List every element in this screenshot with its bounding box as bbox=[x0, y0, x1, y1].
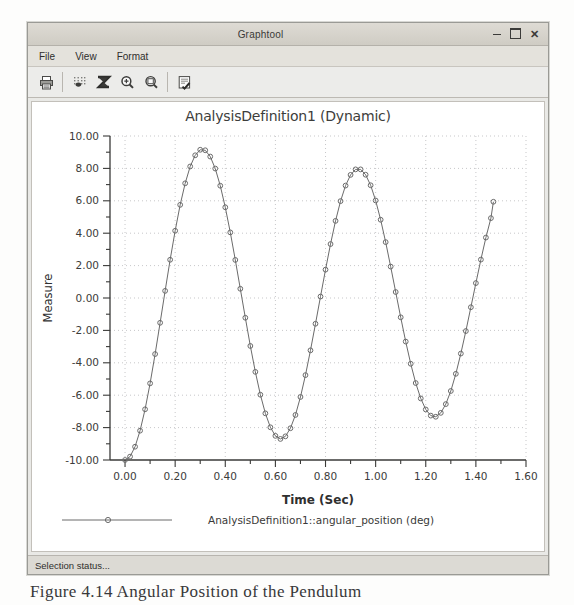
y-tick-label: 2.00 bbox=[76, 259, 99, 271]
y-tick-label: 4.00 bbox=[76, 227, 99, 239]
show-line-icon[interactable] bbox=[92, 71, 114, 93]
x-tick-label: 0.20 bbox=[163, 470, 186, 482]
y-tick-label: -2.00 bbox=[72, 324, 99, 336]
y-tick-label: -4.00 bbox=[72, 356, 99, 368]
x-tick-label: 0.40 bbox=[214, 470, 237, 482]
y-tick-label: -8.00 bbox=[72, 421, 99, 433]
x-tick-label: 0.60 bbox=[264, 470, 287, 482]
zoom-in-icon[interactable] bbox=[116, 71, 138, 93]
toolbar-group-edit bbox=[172, 71, 196, 93]
toolbar-separator-2 bbox=[167, 72, 168, 92]
edit-properties-icon[interactable] bbox=[173, 71, 195, 93]
x-tick-label: 0.00 bbox=[113, 470, 136, 482]
chart-area[interactable]: AnalysisDefinition1 (Dynamic) 10.008.006… bbox=[31, 101, 545, 552]
figure-caption: Figure 4.14 Angular Position of the Pend… bbox=[30, 582, 556, 605]
minimize-button[interactable] bbox=[493, 29, 501, 40]
graphtool-window: Graphtool ✕ File View Format bbox=[27, 22, 549, 575]
y-tick-label: 6.00 bbox=[76, 194, 99, 206]
close-button[interactable]: ✕ bbox=[530, 29, 539, 40]
menu-item-file[interactable]: File bbox=[36, 50, 58, 63]
y-tick-label: -6.00 bbox=[72, 389, 99, 401]
legend: AnalysisDefinition1::angular_position (d… bbox=[62, 514, 434, 527]
window-title: Graphtool bbox=[28, 29, 493, 40]
menubar: File View Format bbox=[28, 46, 548, 67]
x-tick-label: 1.40 bbox=[464, 470, 487, 482]
legend-label: AnalysisDefinition1::angular_position (d… bbox=[208, 514, 434, 527]
maximize-button[interactable] bbox=[510, 28, 521, 41]
window-titlebar: Graphtool ✕ bbox=[28, 23, 548, 46]
statusbar: Selection status... bbox=[28, 555, 548, 574]
toolbar-group-display bbox=[67, 71, 163, 93]
y-tick-label: -10.00 bbox=[65, 454, 99, 466]
print-icon[interactable] bbox=[35, 71, 57, 93]
menu-item-format[interactable]: Format bbox=[114, 50, 152, 63]
y-axis-label: Measure bbox=[41, 274, 55, 323]
menu-item-view[interactable]: View bbox=[72, 50, 100, 63]
show-points-icon[interactable] bbox=[68, 71, 90, 93]
toolbar-separator-1 bbox=[62, 72, 63, 92]
toolbar bbox=[28, 67, 548, 98]
x-tick-label: 1.60 bbox=[514, 470, 537, 482]
x-tick-label: 0.80 bbox=[314, 470, 337, 482]
x-tick-label: 1.20 bbox=[414, 470, 437, 482]
toolbar-group-file bbox=[34, 71, 58, 93]
y-tick-label: 10.00 bbox=[69, 130, 99, 142]
y-tick-label: 8.00 bbox=[76, 162, 99, 174]
x-axis-label: Time (Sec) bbox=[282, 493, 354, 507]
window-controls: ✕ bbox=[493, 28, 548, 41]
zoom-fit-icon[interactable] bbox=[140, 71, 162, 93]
plot-canvas: 10.008.006.004.002.000.00-2.00-4.00-6.00… bbox=[32, 102, 540, 542]
y-tick-label: 0.00 bbox=[76, 292, 99, 304]
x-tick-label: 1.00 bbox=[364, 470, 387, 482]
status-text: Selection status... bbox=[35, 560, 110, 571]
